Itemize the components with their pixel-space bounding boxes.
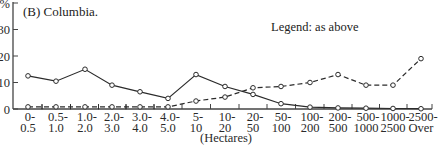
data-point-marker xyxy=(336,72,341,77)
line-chart: 01020300% 0-0.50.5-1.01.0-2.02.0-3.03.0-… xyxy=(0,0,439,146)
data-point-marker xyxy=(279,101,284,106)
data-point-marker xyxy=(308,80,313,85)
y-tick-label: 20 xyxy=(0,50,10,64)
data-point-marker xyxy=(223,84,228,89)
x-tick-label: 200 xyxy=(301,121,320,135)
data-point-marker xyxy=(110,105,115,110)
data-point-marker xyxy=(419,106,424,111)
series-dashed xyxy=(26,56,424,109)
data-point-marker xyxy=(251,92,256,97)
y-tick-label: 30 xyxy=(0,23,10,37)
x-tick-label: 1000 xyxy=(354,121,379,135)
data-point-marker xyxy=(138,105,143,110)
x-tick-label: 4.0 xyxy=(132,121,148,135)
data-point-marker xyxy=(364,83,369,88)
data-point-marker xyxy=(54,105,59,110)
data-point-marker xyxy=(26,105,31,110)
y-tick-label: 10 xyxy=(0,76,10,90)
x-tick-label: Over xyxy=(409,121,435,135)
data-point-marker xyxy=(279,84,284,89)
data-point-marker xyxy=(54,79,59,84)
data-point-marker xyxy=(166,96,171,101)
y-tick-label: 0 xyxy=(4,103,10,117)
x-tick-label: 1.0 xyxy=(48,121,64,135)
data-series xyxy=(26,56,424,111)
data-point-marker xyxy=(391,106,396,111)
y-tick-label: 0% xyxy=(0,0,10,11)
x-tick-label: 2500 xyxy=(381,121,406,135)
x-tick-label: 5.0 xyxy=(160,121,176,135)
x-tick-label: 100 xyxy=(272,121,291,135)
data-point-marker xyxy=(308,105,313,110)
data-point-marker xyxy=(336,106,341,111)
x-tick-label: 3.0 xyxy=(104,121,120,135)
data-point-marker xyxy=(138,89,143,94)
data-point-marker xyxy=(83,105,88,110)
data-point-marker xyxy=(26,74,31,79)
data-point-marker xyxy=(391,83,396,88)
data-point-marker xyxy=(166,105,171,110)
data-point-marker xyxy=(223,95,228,100)
data-point-marker xyxy=(364,106,369,111)
x-axis-label: (Hectares) xyxy=(200,131,252,145)
y-axis-ticks: 01020300% xyxy=(0,0,18,117)
data-point-marker xyxy=(83,67,88,72)
data-point-marker xyxy=(194,72,199,77)
data-point-marker xyxy=(194,99,199,104)
x-tick-label: 500 xyxy=(329,121,348,135)
x-tick-label: 0.5 xyxy=(20,121,36,135)
data-point-marker xyxy=(110,83,115,88)
chart-title: (B) Columbia. xyxy=(23,4,98,19)
data-point-marker xyxy=(251,86,256,91)
data-point-marker xyxy=(419,56,424,61)
legend-note: Legend: as above xyxy=(271,20,359,34)
x-tick-label: 2.0 xyxy=(77,121,93,135)
